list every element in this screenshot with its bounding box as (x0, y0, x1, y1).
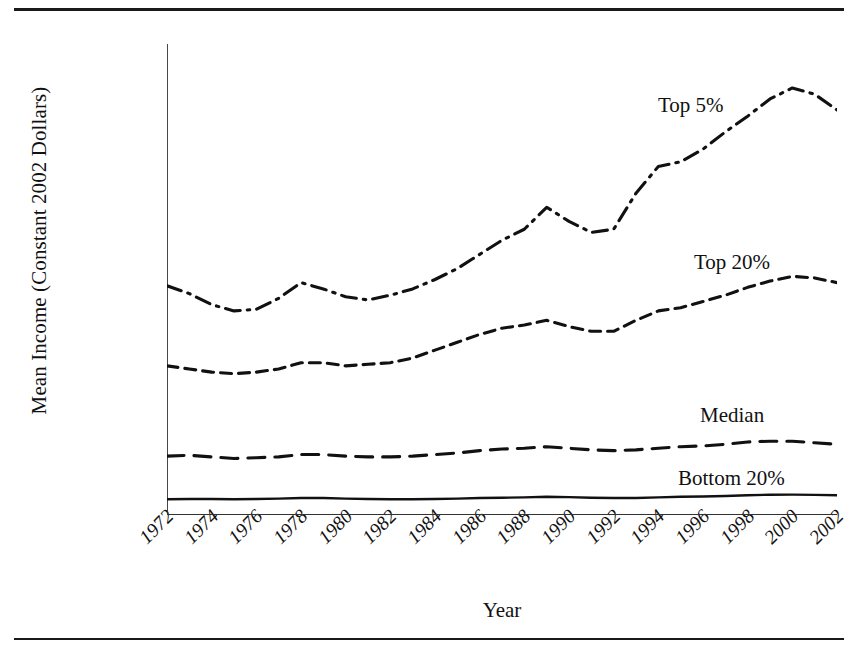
series-label-median: Median (700, 403, 764, 428)
series-line-median (167, 441, 837, 458)
series-label-top-5-percent: Top 5% (658, 93, 724, 118)
series-label-top-20-percent: Top 20% (694, 250, 770, 275)
plot-area (167, 44, 837, 515)
plot-svg (167, 44, 837, 515)
figure-container: Mean Income (Constant 2002 Dollars) Year… (0, 0, 857, 652)
series-line-top-20 (167, 276, 837, 373)
series-label-bottom-20-percent: Bottom 20% (678, 466, 785, 491)
series-line-top-5 (167, 88, 837, 311)
data-series-lines (167, 88, 837, 499)
series-line-bottom-20 (167, 495, 837, 500)
